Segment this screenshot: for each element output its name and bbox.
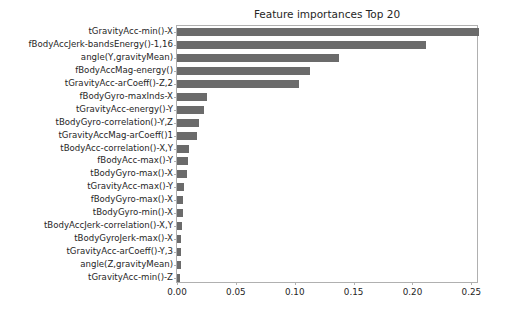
bar <box>177 54 339 62</box>
y-axis-tick-mark <box>174 123 177 124</box>
bar <box>177 145 189 153</box>
y-axis-tick-mark <box>174 58 177 59</box>
y-axis-tick-mark <box>174 149 177 150</box>
y-axis-label: tBodyGyro-correlation()-Y,Z <box>56 118 173 127</box>
bar <box>177 274 180 282</box>
x-axis-tick-label: 0.10 <box>285 287 305 297</box>
y-axis-label: tGravityAcc-arCoeff()-Y,3 <box>66 247 173 256</box>
x-axis-tick-mark <box>412 282 413 285</box>
y-axis-label: tBodyAccJerk-correlation()-X,Y <box>44 221 173 230</box>
y-axis-tick-mark <box>174 226 177 227</box>
y-axis-label: tGravityAcc-min()-X <box>88 27 173 36</box>
y-axis-tick-mark <box>174 97 177 98</box>
bar <box>177 170 187 178</box>
bar <box>177 222 182 230</box>
x-axis-tick-label: 0.00 <box>167 287 187 297</box>
bar <box>177 80 299 88</box>
bar <box>177 209 183 217</box>
chart-title: Feature importances Top 20 <box>176 8 478 20</box>
y-axis-label: tGravityAccMag-arCoeff()1 <box>58 131 173 140</box>
y-axis-label: tBodyAcc-correlation()-X,Y <box>60 144 173 153</box>
bar <box>177 196 183 204</box>
y-axis-label: tBodyGyro-min()-X <box>93 208 173 217</box>
bar <box>177 157 188 165</box>
y-axis-tick-mark <box>174 239 177 240</box>
x-axis-tick-label: 0.25 <box>462 287 482 297</box>
y-axis-label: fBodyGyro-maxInds-X <box>79 92 173 101</box>
x-axis-tick-label: 0.15 <box>344 287 364 297</box>
y-axis-label: angle(Z,gravityMean) <box>80 260 173 269</box>
y-axis-label: tGravityAcc-energy()-Y <box>76 105 173 114</box>
y-axis-tick-mark <box>174 71 177 72</box>
x-axis-tick-mark <box>471 282 472 285</box>
bar <box>177 119 199 127</box>
y-axis-label: fBodyGyro-max()-X <box>91 195 173 204</box>
bar <box>177 93 207 101</box>
bar <box>177 261 181 269</box>
bar <box>177 106 204 114</box>
bar <box>177 28 479 36</box>
y-axis-tick-mark <box>174 265 177 266</box>
y-axis-tick-mark <box>174 45 177 46</box>
bars-container: tGravityAcc-min()-XfBodyAccJerk-bandsEne… <box>177 26 477 282</box>
x-axis-tick-mark <box>236 282 237 285</box>
plot-area: tGravityAcc-min()-XfBodyAccJerk-bandsEne… <box>176 25 478 283</box>
x-axis-tick-mark <box>177 282 178 285</box>
y-axis-label: tGravityAcc-max()-Y <box>87 182 173 191</box>
bar <box>177 248 181 256</box>
y-axis-tick-mark <box>174 110 177 111</box>
y-axis-label: tBodyGyro-max()-X <box>90 169 173 178</box>
y-axis-tick-mark <box>174 32 177 33</box>
bar <box>177 67 310 75</box>
y-axis-tick-mark <box>174 252 177 253</box>
y-axis-label: tGravityAcc-arCoeff()-Z,2 <box>65 79 173 88</box>
y-axis-tick-mark <box>174 200 177 201</box>
y-axis-tick-mark <box>174 84 177 85</box>
y-axis-tick-mark <box>174 161 177 162</box>
y-axis-label: fBodyAccMag-energy() <box>75 66 173 75</box>
bar <box>177 132 197 140</box>
y-axis-label: tBodyGyroJerk-max()-X <box>74 234 173 243</box>
y-axis-tick-mark <box>174 136 177 137</box>
y-axis-tick-mark <box>174 187 177 188</box>
y-axis-tick-mark <box>174 213 177 214</box>
y-axis-tick-mark <box>174 278 177 279</box>
x-axis-tick-label: 0.05 <box>226 287 246 297</box>
y-axis-label: fBodyAcc-max()-Y <box>97 156 173 165</box>
y-axis-label: tGravityAcc-min()-Z <box>88 273 173 282</box>
bar <box>177 41 426 49</box>
y-axis-label: angle(Y,gravityMean) <box>81 53 173 62</box>
x-axis-tick-label: 0.20 <box>403 287 423 297</box>
bar <box>177 235 181 243</box>
y-axis-tick-mark <box>174 174 177 175</box>
y-axis-label: fBodyAccJerk-bandsEnergy()-1,16 <box>29 40 173 49</box>
x-axis-tick-mark <box>354 282 355 285</box>
bar <box>177 183 184 191</box>
figure: Feature importances Top 20 tGravityAcc-m… <box>0 0 522 314</box>
x-axis-tick-mark <box>295 282 296 285</box>
